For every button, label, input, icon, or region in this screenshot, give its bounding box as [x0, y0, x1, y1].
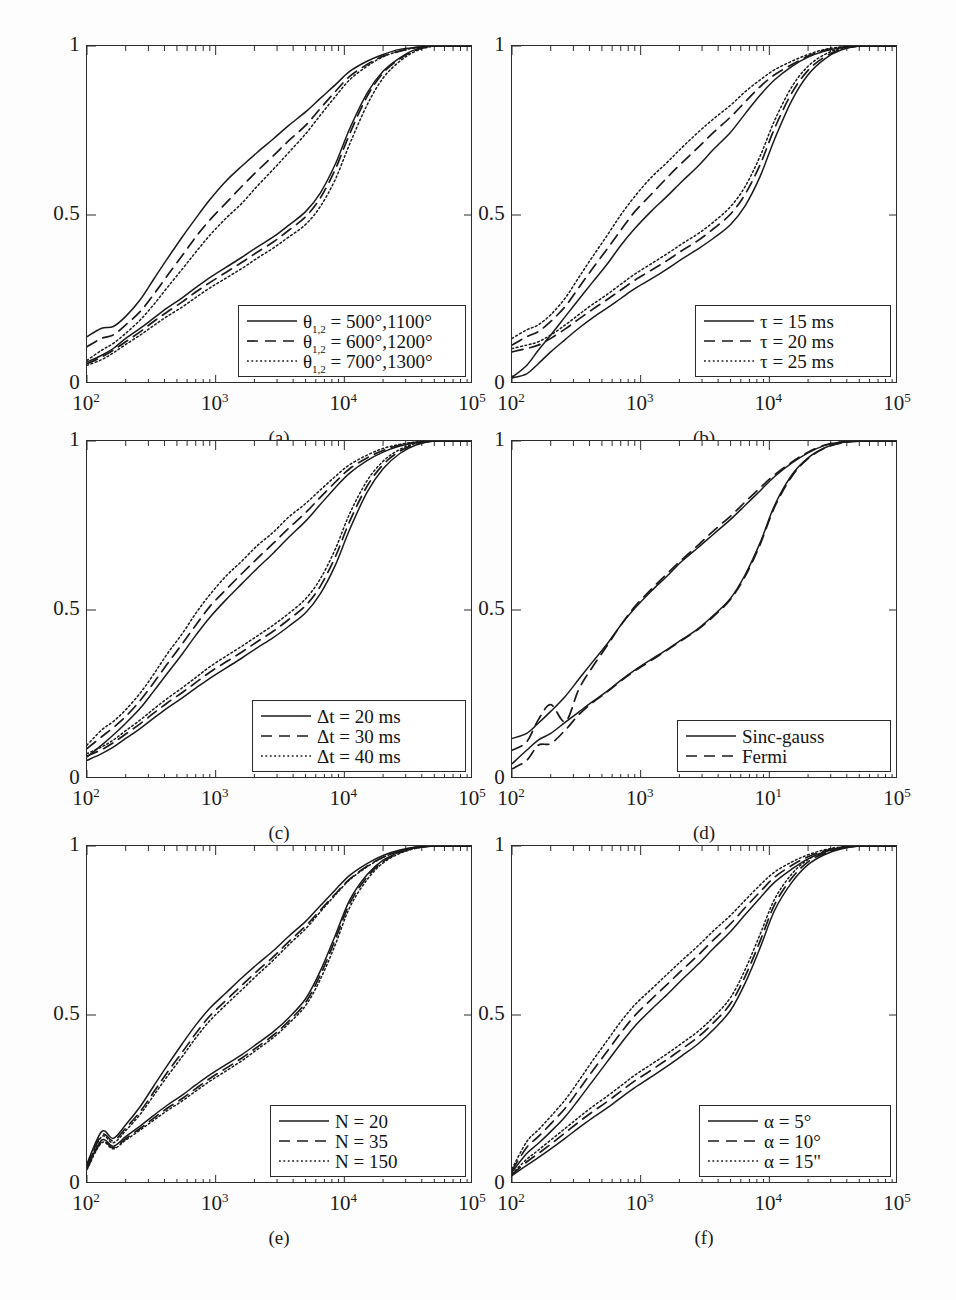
x-tick-exponent: 2 — [518, 1190, 525, 1205]
y-tick-label-a-1: 0.5 — [40, 201, 80, 226]
x-tick-mantissa: 10 — [72, 1191, 93, 1215]
x-tick-label-a-1: 103 — [175, 391, 255, 416]
legend-label-c-2: Δt = 40 ms — [317, 747, 401, 766]
legend-symbol: Fermi — [742, 746, 787, 767]
legend-entry-e-0: N = 20 — [277, 1111, 458, 1131]
curve-a-0 — [87, 46, 472, 337]
x-tick-label-f-2: 104 — [728, 1191, 808, 1216]
x-tick-mantissa: 10 — [626, 391, 647, 415]
x-tick-exponent: 4 — [776, 390, 783, 405]
legend-label-e-0: N = 20 — [335, 1112, 388, 1131]
panel-e: 00.51102103104105(e)N = 20N = 35N = 150 — [40, 825, 484, 1255]
curve-d-0 — [512, 441, 897, 738]
x-tick-label-f-1: 103 — [600, 1191, 680, 1216]
legend-line-sample-solid — [259, 710, 313, 722]
legend-line-sample-dotted — [702, 355, 756, 367]
legend-symbol: θ — [303, 351, 312, 372]
legend-entry-f-0: α = 5° — [706, 1111, 883, 1131]
legend-entry-d-0: Sinc-gauss — [684, 726, 883, 746]
legend-entry-b-2: τ = 25 ms — [702, 351, 883, 371]
legend-e: N = 20N = 35N = 150 — [270, 1105, 466, 1177]
x-tick-exponent: 5 — [904, 1190, 911, 1205]
legend-label-d-0: Sinc-gauss — [742, 727, 824, 746]
x-tick-exponent: 3 — [647, 785, 654, 800]
legend-label-f-0: α = 5° — [764, 1112, 811, 1131]
panel-caption-f: (f) — [511, 1227, 897, 1249]
legend-symbol: θ — [303, 311, 312, 332]
legend-symbol: Δt — [317, 726, 335, 747]
x-tick-exponent: 3 — [647, 1190, 654, 1205]
legend-value: = 40 ms — [335, 746, 401, 767]
legend-line-sample-dotted — [706, 1155, 760, 1167]
x-tick-exponent: 2 — [518, 390, 525, 405]
x-tick-label-a-2: 104 — [303, 391, 383, 416]
legend-label-a-2: θ1,2 = 700°,1300° — [303, 352, 433, 371]
x-tick-label-c-1: 103 — [175, 786, 255, 811]
legend-line-sample-dashed — [259, 730, 313, 742]
legend-entry-d-1: Fermi — [684, 746, 883, 766]
legend-entry-a-2: θ1,2 = 700°,1300° — [245, 351, 458, 371]
legend-line-sample-dotted — [245, 355, 299, 367]
legend-entry-f-2: α = 15" — [706, 1151, 883, 1171]
legend-label-b-2: τ = 25 ms — [760, 352, 834, 371]
legend-entry-e-2: N = 150 — [277, 1151, 458, 1171]
legend-symbol: α — [764, 1151, 774, 1172]
curve-d-1 — [512, 441, 897, 750]
legend-entry-c-2: Δt = 40 ms — [259, 746, 458, 766]
x-tick-label-d-0: 102 — [471, 786, 551, 811]
legend-symbol: α — [764, 1131, 774, 1152]
x-tick-label-c-0: 102 — [46, 786, 126, 811]
legend-entry-c-0: Δt = 20 ms — [259, 706, 458, 726]
x-tick-label-e-0: 102 — [46, 1191, 126, 1216]
legend-line-sample-dashed — [245, 335, 299, 347]
x-tick-mantissa: 10 — [201, 786, 222, 810]
legend-entry-b-1: τ = 20 ms — [702, 331, 883, 351]
x-tick-label-f-0: 102 — [471, 1191, 551, 1216]
x-tick-label-e-1: 103 — [175, 1191, 255, 1216]
legend-entry-b-0: τ = 15 ms — [702, 311, 883, 331]
legend-value: = 20 ms — [768, 331, 834, 352]
legend-entry-e-1: N = 35 — [277, 1131, 458, 1151]
legend-value: = 500°,1100° — [326, 311, 432, 332]
legend-value: = 600°,1200° — [326, 331, 433, 352]
x-tick-mantissa: 10 — [201, 391, 222, 415]
legend-d: Sinc-gaussFermi — [677, 720, 891, 772]
x-tick-exponent: 2 — [93, 785, 100, 800]
legend-symbol: τ — [760, 351, 768, 372]
x-tick-mantissa: 10 — [330, 1191, 351, 1215]
y-tick-label-b-2: 1 — [465, 32, 505, 57]
curve-b-0 — [512, 46, 897, 338]
x-tick-label-d-2: 101 — [728, 786, 808, 811]
y-tick-label-d-1: 0.5 — [465, 596, 505, 621]
y-tick-label-c-2: 1 — [40, 427, 80, 452]
legend-line-sample-solid — [245, 315, 299, 327]
legend-line-sample-solid — [277, 1115, 331, 1127]
legend-line-sample-solid — [684, 730, 738, 742]
legend-label-d-1: Fermi — [742, 747, 787, 766]
legend-f: α = 5°α = 10°α = 15" — [699, 1105, 891, 1177]
x-tick-label-c-2: 104 — [303, 786, 383, 811]
x-tick-mantissa: 10 — [626, 1191, 647, 1215]
x-tick-exponent: 4 — [776, 1190, 783, 1205]
y-tick-label-e-1: 0.5 — [40, 1001, 80, 1026]
x-tick-mantissa: 10 — [883, 1191, 904, 1215]
legend-value: = 25 ms — [768, 351, 834, 372]
legend-symbol: N — [335, 1151, 349, 1172]
legend-value: = 700°,1300° — [326, 351, 433, 372]
legend-label-f-2: α = 15" — [764, 1152, 821, 1171]
legend-value: = 15" — [774, 1151, 821, 1172]
legend-symbol: N — [335, 1111, 349, 1132]
legend-label-b-0: τ = 15 ms — [760, 312, 834, 331]
legend-value: = 30 ms — [335, 726, 401, 747]
legend-value: = 35 — [349, 1131, 388, 1152]
x-tick-mantissa: 10 — [883, 786, 904, 810]
x-tick-label-d-3: 105 — [857, 786, 937, 811]
legend-a: θ1,2 = 500°,1100°θ1,2 = 600°,1200°θ1,2 =… — [238, 305, 466, 377]
legend-label-c-0: Δt = 20 ms — [317, 707, 401, 726]
legend-b: τ = 15 msτ = 20 msτ = 25 ms — [695, 305, 891, 377]
x-tick-mantissa: 10 — [201, 1191, 222, 1215]
x-tick-mantissa: 10 — [72, 391, 93, 415]
x-tick-mantissa: 10 — [497, 391, 518, 415]
legend-entry-c-1: Δt = 30 ms — [259, 726, 458, 746]
panel-d: 00.51102103101105(d)Sinc-gaussFermi — [465, 420, 909, 850]
